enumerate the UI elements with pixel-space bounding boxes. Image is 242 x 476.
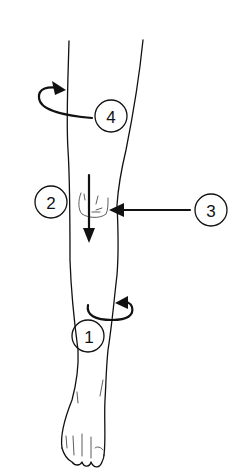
ankle-marks [77,380,103,403]
toe-lines [66,434,103,458]
svg-text:3: 3 [206,202,215,221]
arrowhead-4 [52,81,66,95]
leg-diagram: 4 2 3 1 [0,0,242,476]
label-2: 2 [35,186,67,218]
arrowhead-2 [83,228,95,243]
foot-outline [62,448,104,467]
leg-outline-left [61,41,78,448]
kneecap [79,193,108,217]
svg-text:2: 2 [46,194,55,213]
arrowhead-1 [115,296,128,309]
rotation-arrow-4 [39,87,92,118]
svg-text:1: 1 [84,328,93,347]
label-4: 4 [95,100,127,132]
label-3: 3 [195,194,227,226]
svg-text:4: 4 [106,108,115,127]
